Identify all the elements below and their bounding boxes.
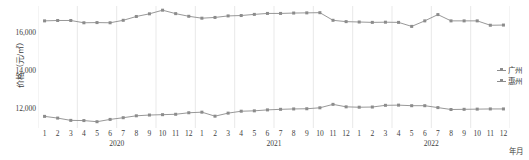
data-point-marker xyxy=(161,113,164,116)
x-axis-group-labels: 202020212022 xyxy=(38,139,510,151)
data-point-marker xyxy=(318,106,321,109)
data-point-marker xyxy=(423,104,426,107)
data-point-marker xyxy=(135,114,138,117)
data-point-marker xyxy=(240,14,243,17)
data-point-marker xyxy=(82,21,85,24)
data-point-marker xyxy=(332,103,335,106)
data-point-marker xyxy=(463,108,466,111)
data-point-marker xyxy=(305,11,308,14)
plot-area xyxy=(38,6,510,128)
legend-swatch-icon xyxy=(497,78,506,84)
data-point-marker xyxy=(109,118,112,121)
data-point-marker xyxy=(135,15,138,18)
legend-label: 惠州 xyxy=(508,77,522,86)
data-point-marker xyxy=(450,108,453,111)
data-point-marker xyxy=(279,108,282,111)
data-point-marker xyxy=(371,21,374,24)
data-point-marker xyxy=(122,19,125,22)
data-point-marker xyxy=(148,12,151,15)
data-point-marker xyxy=(436,106,439,109)
data-point-marker xyxy=(305,107,308,110)
data-point-marker xyxy=(96,120,99,123)
data-point-marker xyxy=(200,17,203,20)
data-point-marker xyxy=(214,16,217,19)
line-chart: 价格（元/㎡） 12,00014,00016,000 1234567891011… xyxy=(0,0,529,160)
data-point-marker xyxy=(384,21,387,24)
data-point-marker xyxy=(463,19,466,22)
data-point-marker xyxy=(345,20,348,23)
data-point-marker xyxy=(214,115,217,118)
data-point-marker xyxy=(174,12,177,15)
data-point-marker xyxy=(43,19,46,22)
data-point-marker xyxy=(227,14,230,17)
x-axis-group-label: 2021 xyxy=(254,139,294,149)
y-axis-tick-label: 14,000 xyxy=(2,67,36,75)
data-point-marker xyxy=(476,19,479,22)
data-point-marker xyxy=(489,107,492,110)
data-point-marker xyxy=(109,21,112,24)
data-point-marker xyxy=(266,108,269,111)
data-point-marker xyxy=(187,111,190,114)
x-axis-tick-label: 12 xyxy=(495,129,511,139)
data-point-marker xyxy=(332,19,335,22)
x-axis-caption: 年月 xyxy=(509,147,523,157)
x-axis-group-label: 2022 xyxy=(411,139,451,149)
x-axis-group-label: 2020 xyxy=(97,139,137,149)
data-point-marker xyxy=(502,24,505,27)
y-axis-tick-label: 12,000 xyxy=(2,105,36,113)
data-point-marker xyxy=(371,106,374,109)
chart-legend: 广州惠州 xyxy=(497,65,529,87)
data-point-marker xyxy=(240,110,243,113)
data-point-marker xyxy=(345,105,348,108)
data-point-marker xyxy=(200,111,203,114)
data-point-marker xyxy=(397,21,400,24)
data-point-marker xyxy=(253,109,256,112)
data-point-marker xyxy=(318,11,321,14)
legend-item[interactable]: 广州 xyxy=(497,65,529,75)
data-point-marker xyxy=(227,112,230,115)
data-point-marker xyxy=(502,107,505,110)
data-point-marker xyxy=(423,19,426,22)
legend-item[interactable]: 惠州 xyxy=(497,76,529,86)
data-point-marker xyxy=(82,119,85,122)
data-point-marker xyxy=(174,113,177,116)
data-point-marker xyxy=(397,104,400,107)
data-point-marker xyxy=(384,104,387,107)
data-point-marker xyxy=(161,9,164,12)
data-point-marker xyxy=(279,12,282,15)
data-point-marker xyxy=(69,119,72,122)
data-point-marker xyxy=(358,21,361,24)
data-point-marker xyxy=(69,19,72,22)
data-point-marker xyxy=(436,13,439,16)
data-point-marker xyxy=(122,116,125,119)
data-point-marker xyxy=(358,106,361,109)
legend-label: 广州 xyxy=(508,66,522,75)
y-axis-tick-label: 16,000 xyxy=(2,29,36,37)
plot-svg xyxy=(38,6,510,128)
legend-swatch-icon xyxy=(497,67,506,73)
data-point-marker xyxy=(292,107,295,110)
data-point-marker xyxy=(266,12,269,15)
data-point-marker xyxy=(43,115,46,118)
data-point-marker xyxy=(476,108,479,111)
data-point-marker xyxy=(410,104,413,107)
data-point-marker xyxy=(253,13,256,16)
data-point-marker xyxy=(410,25,413,28)
y-axis-tick-labels: 12,00014,00016,000 xyxy=(0,0,36,160)
data-point-marker xyxy=(96,21,99,24)
data-point-marker xyxy=(187,15,190,18)
data-point-marker xyxy=(56,117,59,120)
data-point-marker xyxy=(450,19,453,22)
data-point-marker xyxy=(56,19,59,22)
data-point-marker xyxy=(292,12,295,15)
data-point-marker xyxy=(489,24,492,27)
data-point-marker xyxy=(148,114,151,117)
